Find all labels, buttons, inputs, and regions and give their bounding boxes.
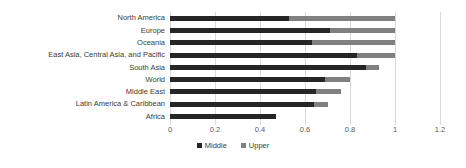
bar-segment-middle — [170, 89, 316, 94]
bar-track — [170, 16, 395, 21]
bar-segment-upper — [312, 40, 395, 45]
category-label: North America — [0, 14, 170, 22]
bar-segment-upper — [289, 16, 395, 21]
bar-segment-middle — [170, 77, 325, 82]
x-tick-label: 1.2 — [435, 126, 445, 134]
chart-row: World — [0, 73, 466, 85]
legend-label: Middle — [205, 142, 227, 150]
category-label: South Asia — [0, 64, 170, 72]
chart-row: South Asia — [0, 61, 466, 73]
bar-track — [170, 114, 276, 119]
bar-segment-upper — [314, 102, 328, 107]
bar-segment-middle — [170, 114, 276, 119]
x-tick-label: 0.6 — [300, 126, 310, 134]
chart-row: Europe — [0, 24, 466, 36]
chart-row: North America — [0, 12, 466, 24]
category-label: Middle East — [0, 88, 170, 96]
category-label: Africa — [0, 113, 170, 121]
chart-row: East Asia, Central Asia, and Pacific — [0, 49, 466, 61]
legend: MiddleUpper — [0, 142, 466, 150]
bar-track — [170, 53, 395, 58]
bar-segment-upper — [325, 77, 350, 82]
x-axis: 00.20.40.60.811.2 — [170, 123, 441, 136]
chart-row: Middle East — [0, 86, 466, 98]
bar-track — [170, 65, 379, 70]
legend-swatch — [241, 143, 246, 148]
bar-track — [170, 28, 395, 33]
chart-row: Africa — [0, 110, 466, 122]
bar-segment-upper — [366, 65, 380, 70]
bar-segment-middle — [170, 102, 314, 107]
x-tick-label: 0.2 — [210, 126, 220, 134]
bar-track — [170, 89, 341, 94]
x-tick-label: 1 — [393, 126, 397, 134]
bar-segment-middle — [170, 16, 289, 21]
legend-item: Middle — [197, 142, 227, 150]
stacked-bar-chart: North AmericaEuropeOceaniaEast Asia, Cen… — [0, 0, 466, 168]
bar-segment-upper — [357, 53, 395, 58]
category-label: Europe — [0, 27, 170, 35]
category-label: East Asia, Central Asia, and Pacific — [0, 51, 170, 59]
legend-label: Upper — [249, 142, 269, 150]
x-tick-label: 0 — [168, 126, 172, 134]
chart-row: Oceania — [0, 37, 466, 49]
bar-segment-middle — [170, 53, 357, 58]
bar-track — [170, 77, 350, 82]
category-label: Latin America & Caribbean — [0, 100, 170, 108]
bar-segment-middle — [170, 40, 312, 45]
bar-segment-upper — [330, 28, 395, 33]
bar-track — [170, 40, 395, 45]
legend-swatch — [197, 143, 202, 148]
chart-rows: North AmericaEuropeOceaniaEast Asia, Cen… — [0, 12, 466, 123]
x-tick-label: 0.8 — [345, 126, 355, 134]
bar-segment-middle — [170, 65, 366, 70]
legend-item: Upper — [241, 142, 269, 150]
x-tick-label: 0.4 — [255, 126, 265, 134]
category-label: Oceania — [0, 39, 170, 47]
bar-segment-upper — [316, 89, 341, 94]
chart-row: Latin America & Caribbean — [0, 98, 466, 110]
category-label: World — [0, 76, 170, 84]
bar-track — [170, 102, 328, 107]
bar-segment-middle — [170, 28, 330, 33]
